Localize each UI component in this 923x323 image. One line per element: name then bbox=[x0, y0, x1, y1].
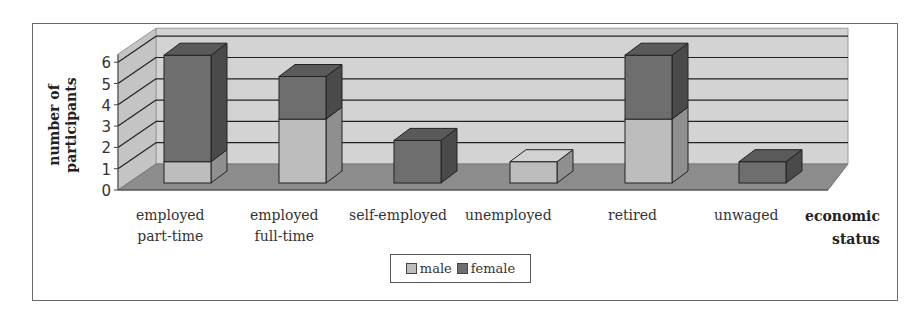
category-label-retired: retired bbox=[608, 205, 657, 226]
y-tick-label: 4 bbox=[101, 97, 111, 115]
x-axis-label-line2: status bbox=[805, 228, 880, 251]
chart-legend: male female bbox=[390, 254, 531, 283]
category-label-line1: unemployed bbox=[465, 205, 552, 226]
legend-swatch-female bbox=[457, 263, 468, 274]
y-axis-label: number of participants bbox=[28, 60, 98, 190]
y-tick-label: 3 bbox=[101, 118, 111, 136]
category-label-line1: employed bbox=[136, 205, 205, 226]
category-label-line1: retired bbox=[608, 205, 657, 226]
y-tick-label: 6 bbox=[101, 54, 111, 72]
legend-swatch-male bbox=[406, 263, 417, 274]
legend-item-female: female bbox=[457, 261, 515, 276]
category-label-line2: part-time bbox=[136, 226, 205, 247]
category-label-employed-full-time: employed full-time bbox=[250, 205, 319, 247]
legend-label-male: male bbox=[420, 261, 452, 276]
legend-item-male: male bbox=[406, 261, 452, 276]
category-label-unemployed: unemployed bbox=[465, 205, 552, 226]
category-label-line1: unwaged bbox=[714, 205, 779, 226]
category-label-line2: full-time bbox=[250, 226, 319, 247]
bar-unemployed bbox=[510, 150, 573, 183]
category-label-employed-part-time: employed part-time bbox=[136, 205, 205, 247]
bar-self-employed bbox=[394, 128, 457, 183]
y-axis-ticks: 0123456 bbox=[101, 54, 118, 200]
category-label-line1: employed bbox=[250, 205, 319, 226]
y-axis-label-line1: number of bbox=[46, 66, 63, 184]
x-axis-label: economic status bbox=[805, 205, 880, 251]
category-label-self-employed: self-employed bbox=[349, 205, 447, 226]
bar-retired bbox=[625, 43, 688, 183]
y-tick-label: 1 bbox=[101, 161, 111, 179]
y-tick-label: 5 bbox=[101, 76, 111, 94]
bar-employed-part-time bbox=[164, 43, 227, 183]
y-tick-label: 0 bbox=[101, 182, 111, 200]
category-label-line1: self-employed bbox=[349, 205, 447, 226]
x-axis-label-line1: economic bbox=[805, 205, 880, 228]
legend-label-female: female bbox=[471, 261, 515, 276]
bar-employed-full-time bbox=[279, 65, 342, 184]
y-tick-label: 2 bbox=[101, 139, 111, 157]
category-label-unwaged: unwaged bbox=[714, 205, 779, 226]
y-axis-label-line2: participants bbox=[63, 66, 80, 184]
bar-unwaged bbox=[739, 150, 802, 183]
